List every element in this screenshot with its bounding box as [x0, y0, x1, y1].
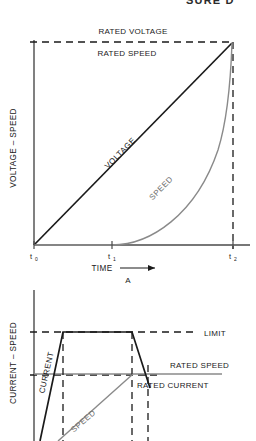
- lower-curve-label-current: CURRENT: [37, 351, 55, 395]
- upper-tick-label-t0: t 0: [30, 252, 38, 262]
- upper-tick-label-t2-base: t: [229, 252, 232, 261]
- lower-chart: CURRENT – SPEED LIMIT RATED SPEED RATED …: [0, 285, 256, 441]
- figure-container: SURE D VOLTAGE – SPEED RATED VOLTAGE RAT…: [0, 0, 256, 441]
- lower-annotation-rated-current: RATED CURRENT: [137, 381, 209, 390]
- upper-chart-caption: A: [125, 276, 131, 285]
- time-arrow-head: [148, 265, 155, 271]
- lower-curve-label-speed: SPEED: [69, 408, 97, 434]
- upper-x-axis-label: TIME: [92, 264, 113, 273]
- upper-tick-label-t0-base: t: [30, 252, 33, 261]
- upper-annotation-rated-voltage: RATED VOLTAGE: [98, 27, 167, 36]
- lower-series-current: [40, 332, 150, 441]
- lower-annotation-rated-speed: RATED SPEED: [170, 361, 229, 370]
- lower-annotation-limit: LIMIT: [204, 329, 226, 338]
- upper-tick-label-t1: t 1: [108, 252, 116, 262]
- upper-tick-label-t2: t 2: [229, 252, 237, 262]
- upper-tick-label-t1-base: t: [108, 252, 111, 261]
- upper-y-axis-label: VOLTAGE – SPEED: [9, 108, 18, 188]
- lower-series-speed: [58, 374, 133, 441]
- upper-tick-label-t2-sub: 2: [234, 256, 237, 262]
- upper-curve-label-voltage: VOLTAGE: [103, 136, 138, 171]
- upper-annotation-rated-speed: RATED SPEED: [97, 49, 156, 58]
- lower-y-axis-label: CURRENT – SPEED: [9, 322, 18, 404]
- upper-curve-label-speed: SPEED: [148, 175, 175, 202]
- upper-tick-label-t0-sub: 0: [35, 256, 38, 262]
- upper-chart: VOLTAGE – SPEED RATED VOLTAGE RATED SPEE…: [0, 0, 256, 285]
- upper-tick-label-t1-sub: 1: [113, 256, 116, 262]
